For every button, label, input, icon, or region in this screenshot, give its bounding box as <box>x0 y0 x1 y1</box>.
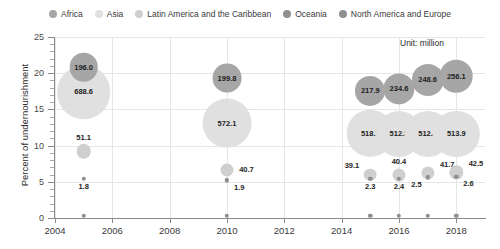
y-axis-minor-tick <box>50 66 54 67</box>
x-axis-tick-label: 2018 <box>446 225 467 236</box>
bubble-africa[interactable]: 199.8 <box>213 64 242 93</box>
gridline-vertical <box>170 37 171 218</box>
y-axis-tick-label: 10 <box>0 141 44 151</box>
bubble-value-label: 42.5 <box>469 160 484 168</box>
legend-label: North America and Europe <box>351 10 451 19</box>
bubble-value-label: 2.4 <box>394 183 404 191</box>
bubble-africa[interactable]: 196.0 <box>69 53 98 82</box>
bubble-value-label: 572.1 <box>218 119 237 127</box>
bubble-value-label: 39.1 <box>345 162 360 170</box>
y-axis-minor-tick <box>50 138 54 139</box>
bubble-value-label: 199.8 <box>218 75 237 83</box>
y-axis-tick-label: 15 <box>0 104 44 114</box>
y-axis-minor-tick <box>50 80 54 81</box>
bubble-north-america-and-europe[interactable] <box>81 214 85 218</box>
legend-marker-icon <box>135 10 143 18</box>
bubble-value-label: 217.9 <box>361 87 380 95</box>
bubble-value-label: 40.7 <box>239 166 254 174</box>
x-axis-tick <box>342 218 343 223</box>
x-axis-tick <box>284 218 285 223</box>
y-axis-minor-tick <box>50 95 54 96</box>
y-axis-minor-tick <box>50 124 54 125</box>
y-axis-tick <box>48 73 54 74</box>
x-axis-tick-label: 2006 <box>102 225 123 236</box>
bubble-value-label: 2.3 <box>365 183 375 191</box>
bubble-value-label: 1.9 <box>234 184 244 192</box>
y-axis-minor-tick <box>50 59 54 60</box>
legend-marker-icon <box>49 10 57 18</box>
y-axis-minor-tick <box>50 167 54 168</box>
bubble-asia[interactable]: 572.1 <box>203 99 252 148</box>
legend-label: Latin America and the Caribbean <box>147 10 271 19</box>
x-axis-tick-label: 2010 <box>216 225 237 236</box>
bubble-value-label: 256.1 <box>447 72 466 80</box>
bubble-asia[interactable]: 513.9 <box>433 111 479 157</box>
x-axis-tick <box>456 218 457 223</box>
y-axis-tick <box>48 146 54 147</box>
x-axis-tick <box>399 218 400 223</box>
gridline-vertical <box>342 37 343 218</box>
bubble-chart: AfricaAsiaLatin America and the Caribbea… <box>0 0 500 249</box>
bubble-value-label: 234.6 <box>390 85 409 93</box>
y-axis-minor-tick <box>50 44 54 45</box>
bubble-africa[interactable]: 248.6 <box>412 64 444 96</box>
y-axis-minor-tick <box>50 175 54 176</box>
legend-item-oceania[interactable]: Oceania <box>283 10 327 19</box>
bubble-value-label: 2.6 <box>463 180 473 188</box>
legend-marker-icon <box>339 10 347 18</box>
bubble-latin-america-and-the-caribbean[interactable] <box>221 164 234 177</box>
gridline-vertical <box>55 37 56 218</box>
x-axis-tick-label: 2014 <box>331 225 352 236</box>
gridline-horizontal <box>55 109 485 110</box>
x-axis-tick-label: 2004 <box>44 225 65 236</box>
legend-item-latin-america-and-the-caribbean[interactable]: Latin America and the Caribbean <box>135 10 271 19</box>
bubble-africa[interactable]: 234.6 <box>383 74 414 105</box>
y-axis-minor-tick <box>50 196 54 197</box>
bubble-north-america-and-europe[interactable] <box>368 214 372 218</box>
x-axis-line <box>54 218 486 219</box>
y-axis-tick <box>48 182 54 183</box>
y-axis-minor-tick <box>50 51 54 52</box>
legend-label: Asia <box>107 10 124 19</box>
legend-label: Oceania <box>295 10 327 19</box>
bubble-north-america-and-europe[interactable] <box>425 214 429 218</box>
x-axis-tick-label: 2008 <box>159 225 180 236</box>
bubble-latin-america-and-the-caribbean[interactable] <box>76 144 91 159</box>
bubble-oceania[interactable] <box>81 177 85 181</box>
legend-item-africa[interactable]: Africa <box>49 10 83 19</box>
y-axis-tick <box>48 109 54 110</box>
x-axis-tick <box>227 218 228 223</box>
y-axis-tick-label: 25 <box>0 32 44 42</box>
y-axis-minor-tick <box>50 102 54 103</box>
y-axis-tick <box>48 218 54 219</box>
bubble-value-label: 513.9 <box>447 130 466 138</box>
x-axis-tick <box>55 218 56 223</box>
y-axis-minor-tick <box>50 189 54 190</box>
bubble-value-label: 196.0 <box>74 64 93 72</box>
legend-marker-icon <box>283 10 291 18</box>
y-axis-tick-label: 5 <box>0 177 44 187</box>
bubble-africa[interactable]: 256.1 <box>440 60 473 93</box>
y-axis-minor-tick <box>50 204 54 205</box>
y-axis-minor-tick <box>50 131 54 132</box>
legend-item-asia[interactable]: Asia <box>95 10 124 19</box>
gridline-vertical <box>112 37 113 218</box>
bubble-africa[interactable]: 217.9 <box>355 76 385 106</box>
y-axis-minor-tick <box>50 117 54 118</box>
bubble-value-label: 248.6 <box>418 76 437 84</box>
y-axis-tick-label: 20 <box>0 68 44 78</box>
legend-item-north-america-and-europe[interactable]: North America and Europe <box>339 10 451 19</box>
y-axis-minor-tick <box>50 211 54 212</box>
legend-marker-icon <box>95 10 103 18</box>
y-axis-minor-tick <box>50 88 54 89</box>
y-axis-minor-tick <box>50 160 54 161</box>
chart-legend: AfricaAsiaLatin America and the Caribbea… <box>0 6 500 22</box>
x-axis-tick <box>112 218 113 223</box>
bubble-value-label: 1.8 <box>78 183 88 191</box>
x-axis-tick-label: 2012 <box>274 225 295 236</box>
bubble-value-label: 688.6 <box>74 88 93 96</box>
y-axis-tick <box>48 37 54 38</box>
x-axis-tick <box>170 218 171 223</box>
legend-label: Africa <box>61 10 83 19</box>
x-axis-tick-label: 2016 <box>388 225 409 236</box>
